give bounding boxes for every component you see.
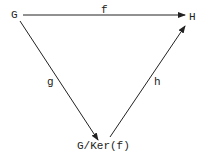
label-h: h <box>154 77 161 88</box>
node-quotient: G/Ker(f) <box>77 141 130 152</box>
commutative-diagram: G H G/Ker(f) f g h <box>0 0 205 156</box>
label-f: f <box>101 5 108 16</box>
diagram-arrows <box>0 0 205 156</box>
arrow-h <box>110 26 185 137</box>
label-g: g <box>47 77 54 88</box>
node-G: G <box>11 10 18 21</box>
arrow-g <box>20 21 98 140</box>
node-H: H <box>189 12 196 23</box>
